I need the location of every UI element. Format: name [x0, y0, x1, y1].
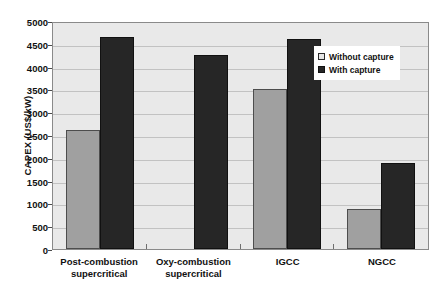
x-axis-label-line: supercritical — [52, 268, 146, 280]
bar — [66, 130, 100, 249]
x-axis-category-label: Post-combustionsupercritical — [52, 256, 146, 280]
bar — [347, 209, 381, 249]
x-axis-label-line: IGCC — [241, 256, 335, 268]
y-axis-tick-label: 500 — [6, 222, 48, 233]
legend-label: With capture — [329, 65, 380, 75]
legend-swatch-icon — [318, 66, 325, 73]
bar — [100, 37, 134, 249]
x-axis-category-labels: Post-combustionsupercriticalOxy-combusti… — [52, 256, 429, 280]
legend-item[interactable]: With capture — [318, 63, 394, 76]
legend-swatch-icon — [318, 53, 325, 60]
y-axis-tick-label: 4500 — [6, 39, 48, 50]
y-axis-tick-label: 4000 — [6, 62, 48, 73]
x-axis-label-line: NGCC — [335, 256, 429, 268]
y-axis-tick-label: 5000 — [6, 17, 48, 28]
legend-item[interactable]: Without capture — [318, 50, 394, 63]
bar-group — [147, 23, 241, 249]
chart-legend: Without captureWith capture — [314, 46, 400, 80]
x-axis-category-label: IGCC — [241, 256, 335, 280]
x-axis-label-line: supercritical — [146, 268, 240, 280]
legend-label: Without capture — [329, 52, 394, 62]
y-axis-tick-label: 1500 — [6, 176, 48, 187]
y-axis-tick-label: 2000 — [6, 153, 48, 164]
x-axis-label-line: Oxy-combustion — [146, 256, 240, 268]
y-axis-tick-label: 1000 — [6, 199, 48, 210]
y-axis-tickmark — [48, 250, 52, 251]
y-axis-tick-label: 3500 — [6, 85, 48, 96]
x-axis-category-label: NGCC — [335, 256, 429, 280]
y-axis-tick-label: 0 — [6, 245, 48, 256]
x-axis-category-label: Oxy-combustionsupercritical — [146, 256, 240, 280]
y-axis-tick-label: 2500 — [6, 131, 48, 142]
chart-figure: CAPEX (US$/kW) 5000450040003500300025002… — [0, 0, 437, 296]
bar-group — [53, 23, 147, 249]
x-axis-label-line: Post-combustion — [52, 256, 146, 268]
bar — [253, 89, 287, 249]
y-axis-tick-labels: 5000450040003500300025002000150010005000 — [6, 22, 48, 250]
bar — [194, 55, 228, 249]
bar — [381, 163, 415, 249]
y-axis-tick-label: 3000 — [6, 108, 48, 119]
